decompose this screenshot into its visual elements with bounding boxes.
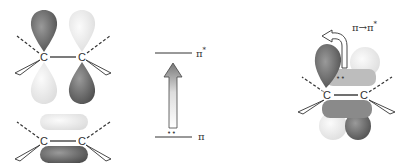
energy-level-diagram: π* •• π [155,46,207,142]
dashed-bond-upper-right [87,122,110,138]
pi-lobe-lower [322,100,372,118]
excitation-arrow [164,63,182,128]
p-orbitals-group: C C [15,10,111,104]
pi-bond-diagram: C C C C π* •• π •• π→π* [0,0,410,168]
p-lobe-bottom-left-light [31,62,57,104]
pi-label: π [198,131,205,142]
carbon-atom-left: C [40,51,48,63]
p-lobe-top-right-light [69,10,95,52]
wedge-bond-lower-left [15,60,40,75]
transition-label: π→π* [352,20,378,33]
pi-lobe-lower-dark [40,146,88,163]
electron-pair: •• [167,129,176,137]
carbon-atom-left: C [40,135,48,147]
wedge-bond-lower-left [15,145,40,161]
wedge-bond-lower-right [86,60,111,75]
p-lobe-bottom-right-dark [69,62,95,104]
carbon-atom-right: C [360,89,368,101]
dashed-bond-upper-right [87,36,110,53]
carbon-atom-left: C [323,89,331,101]
p-lobe-top-left-dark [31,10,57,52]
carbon-atom-right: C [78,51,86,63]
pi-lobe-upper-light [40,114,88,130]
pi-bond-group: C C [15,114,111,163]
wedge-bond-lower-right [86,145,111,161]
excited-state-group: •• π→π* C C [298,20,395,140]
carbon-atom-right: C [78,135,86,147]
dashed-bond-upper-left [17,122,39,138]
wedge-bond-lower-right [369,100,395,114]
electron-pair: •• [336,74,345,82]
pi-star-label: π* [196,46,207,59]
wedge-bond-lower-left [298,100,324,114]
